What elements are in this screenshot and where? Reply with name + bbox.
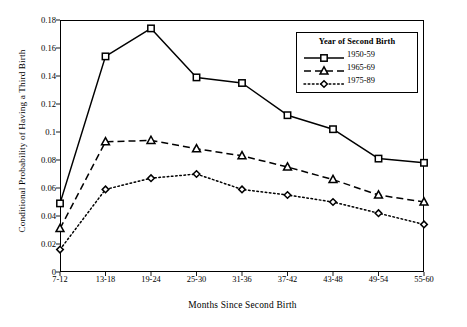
legend-symbol (302, 78, 346, 90)
data-point-marker (148, 175, 155, 182)
data-point-marker (57, 200, 63, 206)
data-point-marker (284, 163, 292, 170)
data-point-marker (102, 138, 110, 145)
legend-entry-1965-69: 1965-69 (302, 62, 412, 75)
legend-entry-label: 1975-89 (346, 77, 375, 85)
data-point-marker (375, 155, 381, 161)
data-point-marker (239, 80, 245, 86)
x-axis-title: Months Since Second Birth (60, 300, 425, 310)
legend-key-icon (302, 50, 346, 62)
data-point-marker (193, 171, 200, 178)
data-point-marker (57, 246, 64, 253)
data-point-marker (330, 126, 336, 132)
data-point-marker (284, 192, 291, 199)
data-point-marker (321, 54, 327, 60)
data-point-marker (239, 186, 246, 193)
legend-entry-1975-89: 1975-89 (302, 75, 412, 88)
data-point-marker (320, 66, 328, 73)
data-point-marker (102, 53, 108, 59)
data-point-marker (421, 221, 428, 228)
data-point-marker (147, 136, 155, 143)
data-point-marker (321, 80, 328, 87)
legend: Year of Second Birth 1950-591965-691975-… (296, 32, 418, 93)
legend-entry-label: 1965-69 (346, 64, 375, 72)
x-tick-label: 55-60 (397, 276, 451, 284)
data-point-marker (193, 74, 199, 80)
legend-key-icon (302, 76, 346, 88)
data-point-marker (375, 191, 383, 198)
series-1975-89 (57, 171, 428, 253)
data-point-marker (284, 112, 290, 118)
chart-figure: Conditional Probability of Having a Thir… (0, 0, 467, 327)
data-point-marker (375, 210, 382, 217)
legend-entries: 1950-591965-691975-89 (302, 49, 412, 88)
data-point-marker (329, 175, 337, 182)
legend-entry-label: 1950-59 (346, 51, 375, 59)
legend-entry-1950-59: 1950-59 (302, 49, 412, 62)
legend-key-icon (302, 63, 346, 75)
data-point-marker (330, 199, 337, 206)
legend-title: Year of Second Birth (302, 37, 412, 46)
data-point-marker (421, 160, 427, 166)
data-point-marker (56, 224, 64, 231)
data-point-marker (193, 145, 201, 152)
series-1965-69 (56, 136, 428, 231)
data-point-marker (238, 152, 246, 159)
data-point-marker (148, 25, 154, 31)
data-point-marker (420, 198, 428, 205)
